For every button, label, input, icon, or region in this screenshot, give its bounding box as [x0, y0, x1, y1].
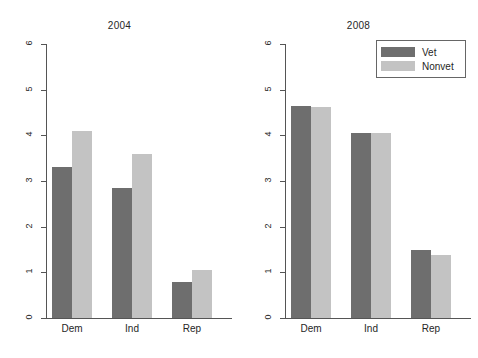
bar-2004-Rep-Nonvet [192, 270, 212, 318]
y-tick-5 [41, 90, 47, 91]
y-tick-6 [280, 44, 286, 45]
bar-2004-Dem-Nonvet [72, 131, 92, 318]
bar-2008-Rep-Vet [411, 250, 431, 319]
y-tick-1 [41, 272, 47, 273]
y-tick-label-0: 0 [24, 306, 34, 328]
y-tick-0 [41, 318, 47, 319]
y-tick-4 [41, 135, 47, 136]
y-tick-4 [280, 135, 286, 136]
y-tick-label-1: 1 [263, 260, 273, 282]
bar-chart-figure: 2004 0123456 DemIndRep 2008 0123456 DemI… [0, 0, 478, 358]
legend-item-nonvet: Nonvet [381, 59, 461, 73]
chart-legend: Vet Nonvet [376, 40, 466, 78]
x-axis-line-right [285, 318, 471, 319]
y-tick-label-2: 2 [24, 215, 34, 237]
x-tick-label-Dem: Dem [281, 323, 341, 334]
x-tick-label-Dem: Dem [42, 323, 102, 334]
bar-2004-Ind-Vet [112, 188, 132, 318]
y-tick-2 [41, 227, 47, 228]
y-tick-1 [280, 272, 286, 273]
x-tick-label-Rep: Rep [162, 323, 222, 334]
x-tick-label-Ind: Ind [102, 323, 162, 334]
panel-title-2004: 2004 [0, 20, 239, 31]
bar-2008-Ind-Nonvet [371, 133, 391, 318]
y-tick-label-6: 6 [263, 32, 273, 54]
y-tick-label-4: 4 [24, 123, 34, 145]
legend-item-vet: Vet [381, 45, 461, 59]
y-tick-label-3: 3 [263, 169, 273, 191]
legend-swatch-nonvet-icon [381, 61, 415, 71]
chart-panel-2004: 2004 0123456 DemIndRep [0, 0, 239, 358]
y-tick-3 [280, 181, 286, 182]
bar-2004-Ind-Nonvet [132, 154, 152, 318]
bar-2008-Rep-Nonvet [431, 255, 451, 318]
y-tick-label-6: 6 [24, 32, 34, 54]
y-tick-label-4: 4 [263, 123, 273, 145]
y-tick-5 [280, 90, 286, 91]
y-tick-label-2: 2 [263, 215, 273, 237]
bar-2004-Rep-Vet [172, 282, 192, 318]
x-tick-label-Ind: Ind [341, 323, 401, 334]
y-tick-label-3: 3 [24, 169, 34, 191]
legend-label-vet: Vet [422, 47, 436, 58]
y-tick-label-5: 5 [24, 78, 34, 100]
x-tick-label-Rep: Rep [401, 323, 461, 334]
y-tick-0 [280, 318, 286, 319]
chart-panel-2008: 2008 0123456 DemIndRep Vet Nonvet [239, 0, 478, 358]
legend-label-nonvet: Nonvet [422, 61, 454, 72]
panel-title-2008: 2008 [239, 20, 478, 31]
bar-2008-Dem-Vet [291, 106, 311, 318]
bar-2008-Ind-Vet [351, 133, 371, 318]
y-tick-label-1: 1 [24, 260, 34, 282]
legend-swatch-vet-icon [381, 47, 415, 57]
x-axis-line-left [46, 318, 232, 319]
y-tick-3 [41, 181, 47, 182]
y-tick-6 [41, 44, 47, 45]
bar-2008-Dem-Nonvet [311, 107, 331, 318]
bar-2004-Dem-Vet [52, 167, 72, 318]
y-tick-label-5: 5 [263, 78, 273, 100]
y-tick-2 [280, 227, 286, 228]
y-tick-label-0: 0 [263, 306, 273, 328]
